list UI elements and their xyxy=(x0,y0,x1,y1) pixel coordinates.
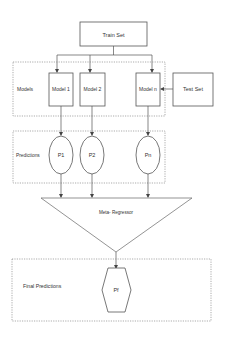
p1-node: P1 xyxy=(49,136,73,174)
stacking-diagram: Train Set Models Model 1 Model 2 Model n… xyxy=(0,0,227,341)
final-predictions-label: Final Predictions xyxy=(23,283,62,289)
pn-label: Pn xyxy=(145,152,152,158)
p2-node: P2 xyxy=(80,136,104,174)
train-set-connectors xyxy=(57,46,152,72)
model-1-label: Model 1 xyxy=(52,86,70,92)
p1-label: P1 xyxy=(58,152,65,158)
train-set-node: Train Set xyxy=(80,22,147,46)
prediction-to-meta-connectors xyxy=(61,174,148,197)
predictions-group-label: Predictions xyxy=(16,153,40,158)
pf-label: Pf xyxy=(113,287,119,293)
pf-node: Pf xyxy=(102,268,131,312)
model-2-label: Model 2 xyxy=(84,86,102,92)
meta-regressor-label: Meta- Regressor xyxy=(99,210,134,215)
model-n-label: Model n xyxy=(139,86,157,92)
model-2-node: Model 2 xyxy=(80,73,105,106)
train-set-label: Train Set xyxy=(102,32,125,38)
test-set-node: Test Set xyxy=(173,73,213,106)
model-n-node: Model n xyxy=(136,73,160,106)
meta-regressor-node: Meta- Regressor xyxy=(41,198,192,252)
model-1-node: Model 1 xyxy=(49,73,73,106)
p2-label: P2 xyxy=(89,152,96,158)
pn-node: Pn xyxy=(136,136,160,174)
models-group-label: Models xyxy=(17,86,34,92)
test-set-label: Test Set xyxy=(183,86,203,92)
